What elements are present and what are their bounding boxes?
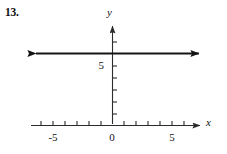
y-axis [112,26,117,124]
x-tick-label-positive-5: 5 [163,131,181,143]
origin-label-zero: 0 [103,131,121,143]
x-tick-label-negative-5: -5 [43,131,63,143]
y-tick-label-5: 5 [90,59,104,71]
math-problem-figure: 13. [0,0,227,154]
problem-number: 13. [5,6,19,19]
x-axis-label: x [206,116,211,128]
x-axis [31,121,200,126]
y-axis-label: y [107,6,112,18]
